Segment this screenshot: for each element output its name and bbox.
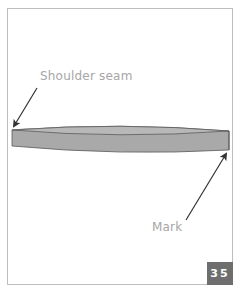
band-illustration xyxy=(0,0,242,293)
shoulder-seam-arrow xyxy=(14,88,37,126)
fabric-band xyxy=(12,126,229,152)
shoulder-seam-label: Shoulder seam xyxy=(40,69,133,83)
page-number-badge: 35 xyxy=(207,262,233,285)
mark-arrow xyxy=(186,154,226,220)
mark-label: Mark xyxy=(152,220,182,234)
